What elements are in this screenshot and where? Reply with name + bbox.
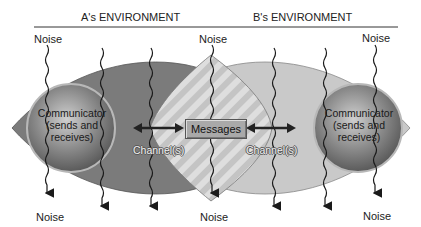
noise-label-top-right: Noise bbox=[362, 33, 390, 44]
noise-label-bottom-right: Noise bbox=[363, 211, 391, 222]
noise-label-top-left: Noise bbox=[34, 34, 62, 45]
left-communicator-line3: receives) bbox=[36, 131, 108, 143]
communication-diagram: A's ENVIRONMENT B's ENVIRONMENT Noise No… bbox=[0, 0, 421, 227]
left-communicator-line1: Communicator bbox=[36, 107, 108, 119]
left-channel-label: Channel(s) bbox=[133, 144, 184, 156]
right-channel-label: Channel(s) bbox=[246, 144, 297, 156]
right-communicator-line3: receives) bbox=[323, 131, 395, 143]
messages-box: Messages bbox=[185, 119, 247, 139]
left-communicator-line2: (sends and bbox=[36, 119, 108, 131]
noise-label-top-center: Noise bbox=[199, 34, 227, 45]
noise-label-bottom-center: Noise bbox=[200, 212, 228, 223]
right-communicator-label: Communicator (sends and receives) bbox=[323, 107, 395, 143]
left-communicator-label: Communicator (sends and receives) bbox=[36, 107, 108, 143]
noise-label-bottom-left: Noise bbox=[36, 212, 64, 223]
a-environment-label: A's ENVIRONMENT bbox=[81, 12, 180, 23]
right-communicator-line1: Communicator bbox=[323, 107, 395, 119]
right-communicator-line2: (sends and bbox=[323, 119, 395, 131]
b-environment-label: B's ENVIRONMENT bbox=[253, 12, 352, 23]
